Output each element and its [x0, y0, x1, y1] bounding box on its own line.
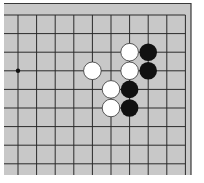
black-stone[interactable]	[139, 62, 157, 80]
white-stone[interactable]	[121, 62, 139, 80]
star-point	[16, 69, 20, 73]
white-stone[interactable]	[121, 43, 139, 61]
white-stone[interactable]	[84, 62, 102, 80]
star-points	[16, 69, 20, 73]
black-stone[interactable]	[121, 81, 139, 99]
white-stone[interactable]	[102, 81, 120, 99]
go-board	[0, 0, 204, 183]
black-stone[interactable]	[121, 99, 139, 117]
white-stone[interactable]	[102, 99, 120, 117]
black-stone[interactable]	[139, 43, 157, 61]
